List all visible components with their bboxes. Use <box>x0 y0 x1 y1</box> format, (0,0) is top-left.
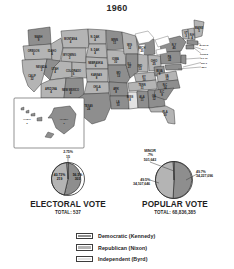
election-map-figure: 1960 <box>0 0 234 269</box>
state-electoral-vote-label: 11 <box>113 41 116 45</box>
legend-swatch-democratic-icon <box>76 233 93 240</box>
legend-item-independent: Independent (Byrd) <box>76 254 216 264</box>
state-new-jersey <box>181 55 186 64</box>
state-massachusetts <box>187 40 198 45</box>
state-electoral-vote-label: 12 <box>152 97 156 101</box>
state-electoral-vote-label: 10 <box>116 103 120 107</box>
legend-label-independent: Independent (Byrd) <box>98 256 147 262</box>
state-callout-label: MD 9 <box>202 66 208 68</box>
state-callout-label: MASS 16 <box>200 44 210 46</box>
state-maryland <box>165 64 182 70</box>
state-callout-label: R.I. 4 <box>202 48 208 50</box>
state-florida <box>149 106 175 124</box>
state-connecticut <box>186 45 194 49</box>
electoral-minor-leader <box>44 158 92 166</box>
inset-hawaii-name: HAWAII <box>23 118 31 120</box>
state-electoral-vote-label: 11 <box>140 98 143 102</box>
electoral-vote-total: TOTAL: 537 <box>8 210 128 215</box>
popular-nixon-value: 34,107,646 <box>106 182 150 186</box>
state-electoral-vote-label: 13 <box>117 74 121 78</box>
state-electoral-vote-label: 27 <box>128 65 132 69</box>
state-callout-label: DEL 3 <box>201 62 208 64</box>
legend-item-democratic: Democratic (Kennedy) <box>76 231 216 241</box>
state-electoral-vote-label: 12 <box>128 46 132 50</box>
electoral-vote-caption: ELECTORAL VOTE <box>8 200 128 209</box>
state-electoral-vote-label: 11 <box>140 86 143 90</box>
popular-vote-total: TOTAL: 68,836,385 <box>118 210 232 215</box>
legend-swatch-independent-icon <box>76 256 93 263</box>
state-electoral-vote-label: 10 <box>142 78 146 82</box>
state-electoral-vote-label: 10 <box>163 113 167 117</box>
us-election-map: WASH9OREGON6CALIF32IDAHO4NEVADA3MONTANA4… <box>8 14 230 154</box>
legend-label-democratic: Democratic (Kennedy) <box>98 233 155 239</box>
popular-nixon-leader <box>150 178 160 186</box>
legend: Democratic (Kennedy) Republican (Nixon) … <box>76 231 216 266</box>
state-electoral-vote-label: 24 <box>87 107 91 111</box>
page-title: 1960 <box>0 3 234 13</box>
inset-alaska-name: ALASKA <box>60 118 69 120</box>
electoral-nixon-value: 219 <box>50 178 69 182</box>
state-electoral-vote-label: 32 <box>30 77 34 81</box>
map-svg: WASH9OREGON6CALIF32IDAHO4NEVADA3MONTANA4… <box>8 14 230 154</box>
callout-label-group: MASS 16R.I. 4CONN 8N.J. 16DEL 3MD 9 <box>200 44 210 69</box>
legend-item-republican: Republican (Nixon) <box>76 243 216 253</box>
legend-swatch-republican-icon <box>76 244 93 251</box>
electoral-kennedy-value: 303 <box>68 178 87 182</box>
state-electoral-vote-label: 32 <box>168 58 172 62</box>
popular-vote-caption: POPULAR VOTE <box>120 200 230 209</box>
state-electoral-vote-label: 13 <box>138 67 142 71</box>
legend-label-republican: Republican (Nixon) <box>98 245 147 251</box>
state-electoral-vote-label: 12 <box>165 77 169 81</box>
popular-kennedy-leader <box>186 172 198 182</box>
state-electoral-vote-label: 25 <box>152 62 156 66</box>
state-new-mexico <box>64 78 84 98</box>
electoral-minor-pct: 2.75% <box>44 150 92 154</box>
state-electoral-vote-label: 20 <box>140 49 144 53</box>
state-callout-label: N.J. 16 <box>201 57 209 59</box>
state-electoral-vote-label: 14 <box>163 86 167 90</box>
state-electoral-vote-label: 45 <box>172 46 176 50</box>
alaska-hawaii-inset: HAWAII 3 ALASKA 3 <box>14 98 84 148</box>
popular-minor-leader <box>148 161 176 173</box>
state-callout-label: CONN 8 <box>200 53 209 55</box>
popular-kennedy-value: 34,227,096 <box>196 174 234 178</box>
state-electoral-vote-label: 10 <box>114 60 118 64</box>
